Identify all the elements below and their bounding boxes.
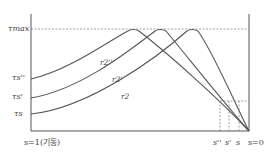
curve-r2-dprime xyxy=(31,30,249,132)
label-tau-s: τs xyxy=(14,110,23,118)
label-s-zero: s=0 xyxy=(248,139,264,147)
curve-r2-prime xyxy=(31,30,249,132)
label-r2: r2 xyxy=(121,93,129,101)
label-s-prime: s' xyxy=(225,139,231,147)
torque-slip-diagram xyxy=(0,0,275,157)
curve-r2 xyxy=(31,30,249,132)
label-tau-max: τmax xyxy=(8,25,29,33)
label-r2-dprime: r2'' xyxy=(100,59,112,67)
label-tau-s-dprime: τs'' xyxy=(12,74,25,82)
label-s: s xyxy=(236,139,240,147)
label-s-dprime: s'' xyxy=(213,139,222,147)
label-tau-s-prime: τs' xyxy=(12,93,23,101)
label-s-start: s=1(기동) xyxy=(24,139,60,147)
label-r2-prime: r2' xyxy=(112,76,122,84)
